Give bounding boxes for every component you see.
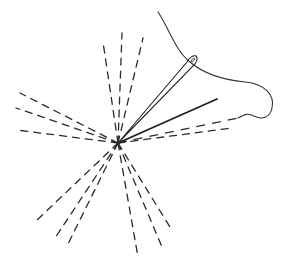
solid-line [118, 99, 217, 143]
needle [118, 56, 197, 143]
left-rays [16, 93, 118, 143]
lower-left-rays [36, 143, 118, 246]
ray-lower-left-3 [67, 143, 118, 246]
ray-upper-left [103, 42, 118, 143]
ray-left-bottom [17, 130, 118, 143]
lower-right-rays [118, 143, 170, 257]
ray-upper-right [118, 38, 143, 143]
needle-body [118, 56, 197, 143]
ray-lower-left-1 [36, 143, 118, 221]
diagram-canvas [0, 0, 284, 262]
ray-lower-left-2 [55, 143, 118, 238]
needle-rays-illustration [0, 0, 284, 262]
upper-rays [103, 33, 143, 143]
needle-eye [191, 58, 195, 63]
ray-left-middle [16, 108, 118, 143]
center-point [117, 142, 120, 145]
thread [158, 12, 273, 118]
ray-left-top [20, 93, 118, 143]
ray-lower-right-2 [118, 143, 162, 247]
